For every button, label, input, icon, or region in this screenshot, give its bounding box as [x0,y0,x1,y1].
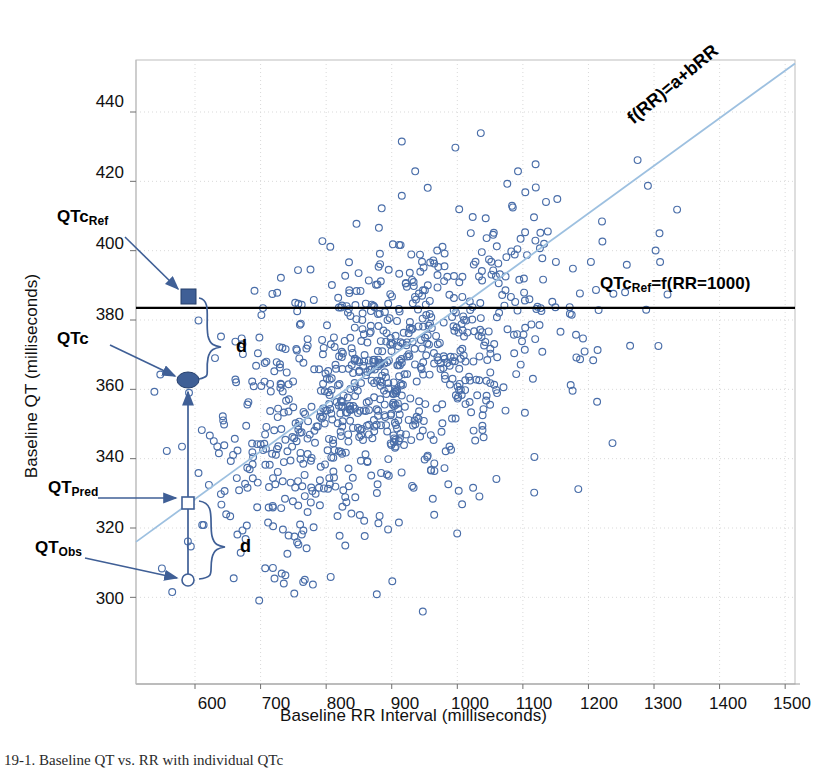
y-tick-420: 420 [62,163,124,183]
annotation-qtc: QTc [57,329,89,349]
reference-line-label: QTcRef=f(RR=1000) [600,274,750,294]
marker-qt-obs [182,574,194,586]
annotation-qtc-text: QTc [57,329,89,348]
reference-line-label-main: QTc [600,274,632,293]
y-tick-320: 320 [62,518,124,538]
annotation-qt-pred: QTPred [48,478,98,498]
y-tick-360: 360 [62,376,124,396]
annotation-qt-obs-sub: Obs [59,545,82,559]
annotation-qt-pred-text: QT [48,478,72,497]
reference-line-label-sub: Ref [632,281,651,295]
annotation-qtc-ref-text: QTc [57,207,89,226]
qt-rr-scatter-figure: 440 420 400 380 360 340 320 300 600 700 … [0,0,827,776]
x-axis-title: Baseline RR Interval (milliseconds) [0,706,827,726]
plot-frame [136,60,795,684]
marker-qtc-ref [181,289,196,304]
plot-canvas [0,0,827,776]
annotation-qt-obs-text: QT [35,538,59,557]
brace-lower-d-label: d [240,536,251,557]
y-axis-title: Baseline QT (milliseconds) [22,96,42,656]
annotation-qtc-ref-sub: Ref [89,214,108,228]
y-tick-380: 380 [62,305,124,325]
brace-upper-d-label: d [236,336,247,357]
y-tick-340: 340 [62,447,124,467]
annotation-qtc-ref: QTcRef [57,207,108,227]
marker-qtc [177,372,199,388]
annotation-qt-obs: QTObs [35,538,82,558]
reference-line-label-rest: =f(RR=1000) [651,274,750,293]
figure-caption: 19-1. Baseline QT vs. RR with individual… [4,752,824,774]
y-tick-400: 400 [62,234,124,254]
annotation-qt-pred-sub: Pred [72,485,99,499]
marker-qt-pred [182,497,194,509]
y-tick-440: 440 [62,92,124,112]
y-tick-300: 300 [62,589,124,609]
